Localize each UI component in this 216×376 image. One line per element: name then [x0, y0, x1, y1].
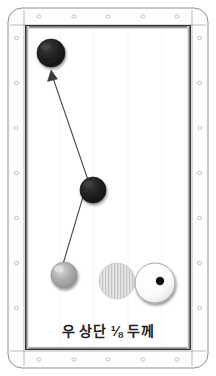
- black-ball-1-highlight: [41, 43, 51, 50]
- white-ball-body: [135, 263, 175, 303]
- black-ball-1-body: [37, 39, 65, 67]
- cue-ball: [51, 262, 77, 288]
- striped-ball-body: [99, 263, 135, 299]
- cue-ball-highlight: [54, 266, 63, 273]
- billiards-diagram: 우 상단 ⅛ 두께: [0, 0, 216, 376]
- billiards-table-svg: 우 상단 ⅛ 두께: [0, 0, 216, 376]
- black-ball-2-highlight: [84, 181, 93, 187]
- white-ball-highlight: [140, 268, 153, 277]
- black-ball-2-body: [80, 177, 106, 203]
- white-ball-contact-dot: [156, 277, 164, 285]
- cue-ball-body: [51, 262, 77, 288]
- cushion-right: [187, 26, 190, 350]
- cushion-left: [26, 26, 29, 350]
- striped-ball: [99, 263, 135, 299]
- white-ball-with-dot: [135, 263, 175, 303]
- cushion-top: [26, 26, 191, 29]
- diagram-caption: 우 상단 ⅛ 두께: [62, 323, 155, 339]
- target-ball-middle: [80, 177, 106, 203]
- target-ball-upper-left: [37, 39, 65, 67]
